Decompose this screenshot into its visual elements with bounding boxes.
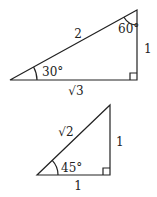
angle-arc-30 — [34, 67, 37, 80]
hypotenuse-label: 2 — [74, 27, 82, 41]
triangle-30-60-90: 2 1 √3 30° 60° — [10, 10, 152, 98]
vertical-leg-label: 1 — [116, 135, 124, 149]
right-angle-marker — [103, 168, 110, 175]
angle-30-label: 30° — [42, 65, 63, 79]
triangle-45-45-90: √2 1 1 45° — [37, 105, 124, 193]
hypotenuse-label: √2 — [58, 125, 73, 139]
vertical-leg-label: 1 — [144, 42, 152, 56]
triangle-1-outline — [10, 10, 137, 80]
angle-45-label: 45° — [61, 161, 82, 175]
right-angle-marker — [130, 73, 137, 80]
horizontal-leg-label: 1 — [74, 179, 82, 193]
horizontal-leg-label: √3 — [68, 84, 83, 98]
special-right-triangles-diagram: 2 1 √3 30° 60° √2 1 1 45° — [0, 0, 157, 197]
angle-60-label: 60° — [118, 22, 139, 36]
angle-arc-45 — [52, 160, 58, 175]
